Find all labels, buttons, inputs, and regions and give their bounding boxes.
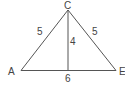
vertex-label-e: E (119, 66, 125, 77)
height-label: 4 (70, 36, 76, 47)
base-label: 6 (65, 73, 71, 84)
side-label-right: 5 (92, 26, 98, 37)
side-label-left: 5 (37, 26, 43, 37)
triangle-diagram: C A E 5 5 4 6 (0, 0, 125, 89)
vertex-label-a: A (8, 66, 15, 77)
vertex-label-c: C (64, 0, 71, 11)
side-ca (21, 10, 68, 71)
